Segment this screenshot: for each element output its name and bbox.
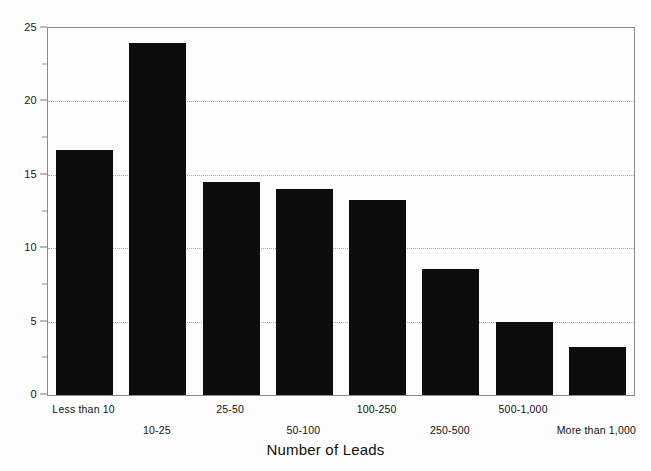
y-tick-major xyxy=(40,320,47,321)
y-tick-major xyxy=(40,173,47,174)
bar-chart: 0510152025 Less than 1010-2525-5050-1001… xyxy=(0,0,651,471)
bar xyxy=(569,347,626,395)
x-tick-label: 500-1,000 xyxy=(499,403,548,415)
y-tick-major xyxy=(40,100,47,101)
x-tick-label: More than 1,000 xyxy=(557,424,636,436)
plot-area xyxy=(47,27,635,396)
bar xyxy=(349,200,406,395)
y-tick-label: 5 xyxy=(31,315,37,327)
y-tick-label: 20 xyxy=(24,94,37,106)
x-tick-label: 50-100 xyxy=(286,424,320,436)
y-tick-major xyxy=(40,394,47,395)
x-tick-label: 25-50 xyxy=(216,403,244,415)
y-tick-label: 15 xyxy=(24,168,37,180)
y-tick-label: 25 xyxy=(24,21,37,33)
bar xyxy=(56,150,113,395)
bar xyxy=(203,182,260,395)
x-axis-title: Number of Leads xyxy=(0,441,651,458)
y-tick-major xyxy=(40,27,47,28)
x-axis-labels: Less than 1010-2525-5050-100100-250250-5… xyxy=(47,396,635,442)
bar xyxy=(422,269,479,395)
y-tick-label: 10 xyxy=(24,241,37,253)
x-tick-label: 250-500 xyxy=(430,424,470,436)
y-tick-major xyxy=(40,247,47,248)
bar xyxy=(276,189,333,395)
bar xyxy=(129,43,186,395)
y-tick-label: 0 xyxy=(31,388,37,400)
bar xyxy=(496,322,553,395)
x-tick-label: 10-25 xyxy=(143,424,171,436)
x-tick-label: Less than 10 xyxy=(52,403,115,415)
x-tick-label: 100-250 xyxy=(357,403,397,415)
y-axis: 0510152025 xyxy=(0,0,47,471)
